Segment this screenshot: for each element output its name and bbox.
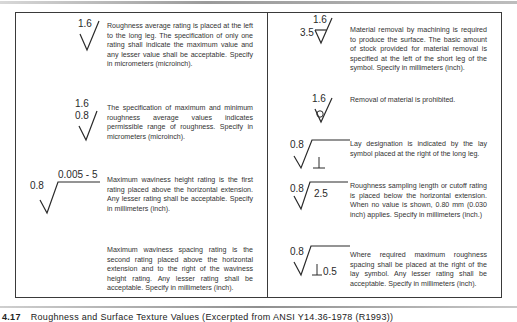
- material-removal-prohibited-symbol-icon: 1.6: [312, 92, 342, 124]
- svg-text:0.8: 0.8: [290, 246, 304, 257]
- svg-text:1.6: 1.6: [78, 18, 92, 29]
- description-sampling-length: Roughness sampling length or cutoff rati…: [350, 182, 487, 220]
- description-lay-designation: Lay designation is indicated by the lay …: [350, 140, 487, 159]
- sampling-length-symbol-icon: 0.8 2.5: [290, 180, 350, 212]
- figure-number: 4.17: [2, 312, 21, 322]
- description-material-removal: Material removal by machining is require…: [350, 26, 487, 74]
- svg-text:0.8: 0.8: [290, 183, 304, 194]
- roughness-spacing-symbol-icon: 0.8 0.5: [290, 244, 350, 280]
- description-waviness-spacing: Maximum waviness spacing rating is the s…: [107, 246, 253, 294]
- svg-text:1.6: 1.6: [75, 98, 89, 109]
- bottom-rule: [0, 306, 517, 308]
- description-roughness-average: Roughness average rating is placed at th…: [107, 22, 253, 70]
- svg-text:2.5: 2.5: [314, 188, 328, 199]
- svg-text:0.5: 0.5: [323, 266, 337, 277]
- svg-text:0.8: 0.8: [30, 180, 44, 191]
- svg-text:3.5: 3.5: [300, 27, 314, 38]
- svg-text:0.8: 0.8: [290, 139, 304, 150]
- description-waviness-height: Maximum waviness height rating is the fi…: [107, 176, 253, 214]
- figure-caption-text: Roughness and Surface Texture Values (Ex…: [31, 312, 394, 322]
- figure-caption: 4.17Roughness and Surface Texture Values…: [2, 312, 393, 322]
- material-removal-symbol-icon: 1.6 3.5: [300, 13, 342, 47]
- svg-text:0.8: 0.8: [75, 110, 89, 121]
- svg-text:1.6: 1.6: [312, 93, 326, 104]
- description-roughness-range: The specification of maximum and minimum…: [107, 104, 253, 142]
- top-rule: [0, 1, 517, 4]
- svg-text:1.6: 1.6: [313, 14, 327, 25]
- svg-text:0.005 - 5: 0.005 - 5: [58, 169, 98, 180]
- description-roughness-spacing: Where required maximum roughness spacing…: [350, 251, 487, 289]
- waviness-height-symbol-icon: 0.005 - 5 0.8: [30, 170, 105, 216]
- lay-designation-symbol-icon: 0.8: [290, 134, 350, 172]
- column-divider: [267, 12, 268, 298]
- description-removal-prohibited: Removal of material is prohibited.: [350, 96, 487, 106]
